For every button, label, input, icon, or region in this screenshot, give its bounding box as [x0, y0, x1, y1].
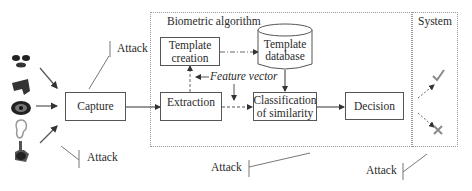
decision-box: Decision [345, 92, 404, 120]
template-database-cylinder: Template database [258, 38, 312, 66]
classification-box: Classification of similarity [253, 92, 317, 121]
extraction-box: Extraction [160, 92, 222, 121]
capture-box: Capture [65, 92, 126, 121]
face-icon [10, 53, 32, 69]
template-creation-label-1: Template [169, 39, 212, 52]
extraction-label: Extraction [167, 96, 215, 109]
template-database-label-1: Template [264, 38, 307, 50]
classification-label-2: of similarity [257, 107, 314, 120]
attack-label-system: Attack [366, 164, 397, 176]
hand-icon [10, 77, 32, 97]
capture-label: Capture [77, 100, 113, 113]
attack-label-capture-top: Attack [117, 42, 148, 54]
template-creation-label-2: creation [171, 52, 208, 65]
decision-label: Decision [354, 100, 395, 113]
ear-icon [12, 118, 30, 140]
template-database-label-2: database [265, 50, 305, 62]
attack-label-algorithm: Attack [211, 161, 242, 173]
attack-label-capture-bottom: Attack [87, 151, 118, 163]
template-creation-box: Template creation [160, 37, 220, 66]
classification-label-1: Classification [253, 94, 316, 107]
eye-icon [10, 100, 32, 116]
fingerprint-icon [10, 140, 32, 164]
feature-vector-label: Feature vector [210, 70, 278, 82]
